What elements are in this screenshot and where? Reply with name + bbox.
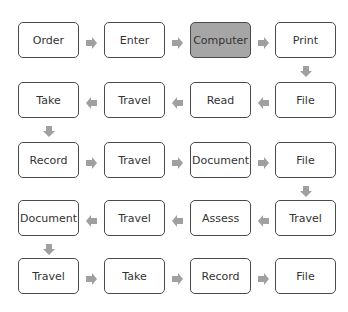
flow-node: Order [18, 22, 79, 58]
arrow-right-icon [86, 154, 98, 173]
flow-node: Print [275, 22, 336, 58]
flow-node: Document [190, 142, 251, 178]
flow-node: Record [190, 258, 251, 294]
flow-node: Take [18, 82, 79, 118]
arrow-right-icon [258, 270, 270, 289]
flow-node: Document [18, 200, 79, 236]
arrow-right-icon [86, 34, 98, 53]
flow-node: Travel [104, 82, 165, 118]
flow-node: Record [18, 142, 79, 178]
arrow-down-icon [300, 63, 312, 82]
flow-node: File [275, 258, 336, 294]
arrow-right-icon [172, 34, 184, 53]
arrow-left-icon [86, 212, 98, 231]
flow-node: Read [190, 82, 251, 118]
flow-node: Travel [104, 142, 165, 178]
arrow-down-icon [43, 123, 55, 142]
arrow-right-icon [172, 270, 184, 289]
arrow-right-icon [172, 154, 184, 173]
arrow-right-icon [258, 34, 270, 53]
flow-node: Travel [275, 200, 336, 236]
flow-node: File [275, 82, 336, 118]
flow-node: Computer [190, 22, 251, 58]
arrow-right-icon [258, 154, 270, 173]
arrow-left-icon [258, 94, 270, 113]
arrow-left-icon [172, 212, 184, 231]
arrow-left-icon [172, 94, 184, 113]
arrow-right-icon [86, 270, 98, 289]
flow-node: Take [104, 258, 165, 294]
arrow-left-icon [86, 94, 98, 113]
flow-node: File [275, 142, 336, 178]
flow-node: Travel [104, 200, 165, 236]
flow-node: Enter [104, 22, 165, 58]
arrow-left-icon [258, 212, 270, 231]
flow-node: Assess [190, 200, 251, 236]
flow-node: Travel [18, 258, 79, 294]
